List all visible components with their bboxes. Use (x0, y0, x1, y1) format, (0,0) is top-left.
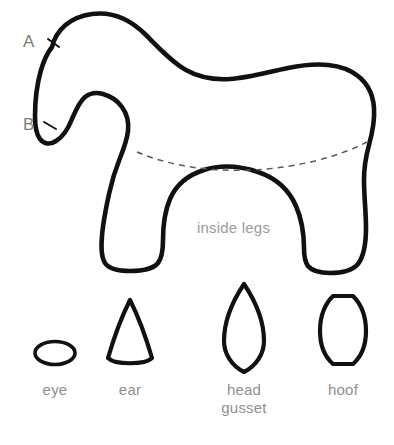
head-gusset-piece (224, 284, 264, 372)
ear-outline (108, 300, 152, 363)
notch-label-b: B (23, 115, 35, 135)
notch-label-a: A (23, 32, 35, 52)
head-gusset-label-line1: head (227, 381, 261, 398)
ear-label: ear (95, 381, 165, 399)
inside-legs-label: inside legs (197, 219, 270, 237)
head-gusset-label-line2: gusset (221, 399, 266, 416)
head-gusset-label: head gusset (209, 381, 279, 416)
ear-piece (108, 300, 152, 363)
notch-tick-b (44, 122, 56, 129)
hoof-label: hoof (308, 381, 378, 399)
inside-legs-seam-line (137, 142, 367, 170)
pattern-sheet: A B inside legs eye ear head gusset hoof (0, 0, 394, 445)
hoof-piece (320, 296, 366, 364)
eye-outline (35, 342, 75, 365)
head-gusset-outline (224, 284, 264, 372)
eye-label: eye (20, 381, 90, 399)
hoof-outline (320, 296, 366, 364)
eye-piece (35, 342, 75, 365)
